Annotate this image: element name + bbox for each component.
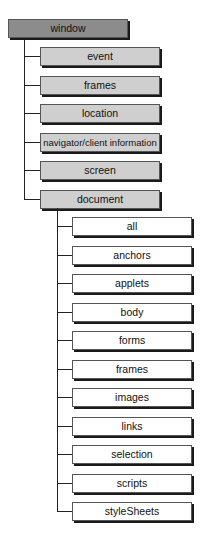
node-document-body: body <box>72 303 192 322</box>
connector-2 <box>24 113 40 114</box>
node-document-all: all <box>72 217 192 236</box>
connector-doc-1 <box>57 255 73 256</box>
connector-trunk-document <box>57 208 58 512</box>
node-document-stylesheets: styleSheets <box>72 502 192 521</box>
connector-doc-0 <box>57 226 73 227</box>
connector-doc-6 <box>57 397 73 398</box>
node-document-anchors: anchors <box>72 246 192 265</box>
connector-doc-4 <box>57 340 73 341</box>
connector-trunk-window <box>24 39 25 199</box>
connector-4 <box>24 170 40 171</box>
connector-5 <box>24 199 40 200</box>
connector-doc-5 <box>57 369 73 370</box>
node-frames: frames <box>40 76 160 95</box>
connector-doc-10 <box>57 511 73 512</box>
node-document-links: links <box>72 417 192 436</box>
connector-doc-8 <box>57 454 73 455</box>
connector-doc-7 <box>57 426 73 427</box>
connector-1 <box>24 85 40 86</box>
node-document-forms: forms <box>72 331 192 350</box>
connector-doc-9 <box>57 483 73 484</box>
node-event: event <box>40 47 160 66</box>
node-document-frames: frames <box>72 360 192 379</box>
connector-0 <box>24 56 40 57</box>
node-screen: screen <box>40 161 160 180</box>
node-document-applets: applets <box>72 274 192 293</box>
node-navigator-client-information: navigator/client information <box>40 133 160 152</box>
node-document-scripts: scripts <box>72 474 192 493</box>
connector-doc-3 <box>57 312 73 313</box>
node-location: location <box>40 104 160 123</box>
connector-3 <box>24 142 40 143</box>
node-document-images: images <box>72 388 192 407</box>
node-window: window <box>8 19 128 38</box>
connector-doc-2 <box>57 283 73 284</box>
node-document: document <box>40 190 160 209</box>
node-document-selection: selection <box>72 445 192 464</box>
